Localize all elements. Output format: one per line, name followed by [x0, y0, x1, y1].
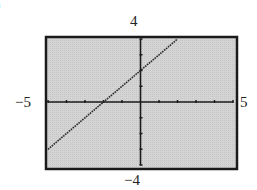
calculator-graph [0, 0, 257, 190]
xmax-label: 5 [240, 95, 248, 110]
ymax-label: 4 [130, 14, 138, 29]
xmin-label: −5 [15, 95, 31, 110]
ymin-label: −4 [124, 173, 140, 188]
